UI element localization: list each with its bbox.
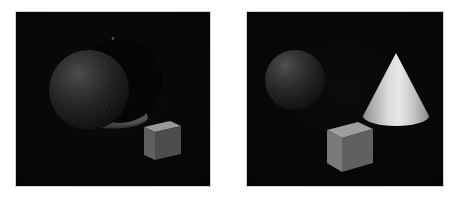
left-sphere [49,50,129,130]
right-sphere-grain [265,50,325,110]
right-cube [323,118,377,176]
right-sphere [265,50,325,110]
right-scene-canvas [247,12,443,186]
figure-stage [0,0,457,197]
left-cube [141,118,183,162]
left-scene-canvas [16,12,210,186]
left-sphere-grain [49,50,129,130]
right-scene-panel [246,11,444,187]
left-scene-panel [15,11,211,187]
